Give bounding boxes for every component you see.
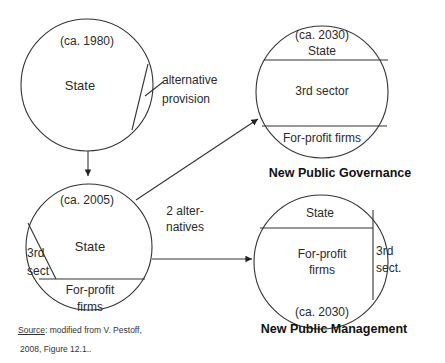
year-npg: (ca. 2030) <box>295 28 349 42</box>
diagram-lines <box>0 0 445 363</box>
year-2005: (ca. 2005) <box>60 193 114 207</box>
third-label-npm: 3rd <box>376 244 393 258</box>
state-label-npg: State <box>308 44 336 58</box>
source-label: Source <box>18 325 45 335</box>
sect-label-npm: sect. <box>376 261 401 275</box>
alternatives-label-2: natives <box>166 220 204 234</box>
alternatives-label-1: 2 alter- <box>166 204 203 218</box>
alternative-label: alternative <box>162 73 217 87</box>
source-line2: 2008, Figure 12.1.. <box>20 342 91 356</box>
npm-caption: New Public Management <box>261 322 408 336</box>
third-label-2005: 3rd <box>27 246 44 260</box>
third-sector-label-npg: 3rd sector <box>295 84 348 98</box>
forprofit-label-2005: For-profit <box>66 283 115 297</box>
firms-label-2005: firms <box>77 300 103 314</box>
year-1980: (ca. 1980) <box>60 34 114 48</box>
state-label-npm: State <box>306 206 334 220</box>
forprofit-label-npg: For-profit firms <box>283 131 361 145</box>
state-label-1980: State <box>65 79 95 93</box>
firms-label-npm: firms <box>309 263 335 277</box>
source-text: : modified from V. Pestoff, <box>45 325 142 335</box>
sect-label-2005: sect <box>27 264 49 278</box>
year-npm: (ca. 2030) <box>295 305 349 319</box>
provision-label: provision <box>162 92 210 106</box>
state-label-2005: State <box>75 240 105 254</box>
forprofit-label-npm: For-profit <box>298 247 347 261</box>
npg-caption: New Public Governance <box>269 166 411 180</box>
source-note: Source: modified from V. Pestoff, <box>18 323 142 337</box>
